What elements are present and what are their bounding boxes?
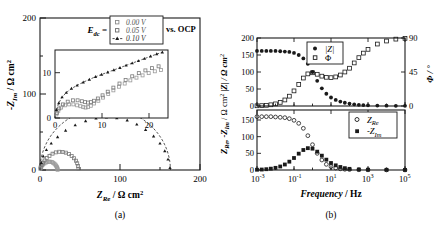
data-point <box>287 50 291 54</box>
inset-xtick-20: 20 <box>145 120 154 130</box>
data-point <box>357 103 361 107</box>
panel-b-ytick-bottom: 0 <box>250 165 254 175</box>
panel-b-legend-bottom: ZRe -ZIm <box>349 112 397 138</box>
data-point <box>320 86 324 90</box>
panel-b-ylabel-right: Φ / ° <box>425 65 435 83</box>
panel-b-xtick: 103 <box>362 172 374 184</box>
panel-b-ytick-top: 50 <box>246 84 255 94</box>
data-point <box>385 168 389 172</box>
panel-a-xlabel-exp: 2 <box>140 189 143 196</box>
panel-b-ytick-bottom: 100 <box>241 132 254 142</box>
panel-b-ylabel-l1s: Re <box>223 142 230 150</box>
data-point <box>269 49 273 53</box>
data-point <box>361 103 365 107</box>
data-point <box>334 163 338 167</box>
legend-suffix-ocp: vs. OCP <box>166 24 196 34</box>
panel-a-xlabel-unit: / Ω cm <box>112 190 140 200</box>
data-point <box>366 103 370 107</box>
data-point <box>283 163 287 167</box>
panel-a-xtick-0: 0 <box>38 174 43 184</box>
panel-b-ytick-bottom: 50 <box>246 148 255 158</box>
panel-b-ylabel-l4e: 2 <box>218 54 225 57</box>
panel-a-ytick-0: 0 <box>32 165 37 175</box>
panel-b-ytick-top: 150 <box>241 50 254 60</box>
panel-a-xtick-100: 100 <box>113 174 127 184</box>
data-point <box>269 167 273 171</box>
data-point <box>348 102 352 106</box>
data-point <box>375 104 379 108</box>
panel-b-ytick-right: 0 <box>409 101 413 111</box>
data-point <box>334 98 338 102</box>
panel-a-inset-frame <box>55 50 168 118</box>
data-point <box>278 49 282 53</box>
data-point <box>324 92 328 96</box>
svg-text:ZRe, -ZIm / Ω cm2 |Z| / Ω cm2: ZRe, -ZIm / Ω cm2 |Z| / Ω cm2 <box>218 54 230 155</box>
data-point <box>348 167 352 171</box>
legend-label-zim-sub: Im <box>374 131 382 138</box>
panel-b-svg: 10-310-110110310505010015020004590050100… <box>215 0 442 232</box>
legend-marker-zim <box>355 129 359 133</box>
data-point <box>306 146 310 150</box>
panel-a-xtick-200: 200 <box>193 174 207 184</box>
panel-b-xtick: 101 <box>325 172 337 184</box>
panel-a-legend-eq: = <box>102 25 107 35</box>
data-point <box>366 168 370 172</box>
panel-b-xlabel-unit: / Hz <box>344 189 362 199</box>
data-point <box>283 50 287 54</box>
data-point <box>297 53 301 57</box>
panel-b-ytick-right: 90 <box>409 33 418 43</box>
panel-a-ylabel-unit: / Ω cm <box>6 63 16 91</box>
panel-a-xlabel-sub: Re <box>102 195 111 203</box>
inset-xtick-0: 0 <box>53 120 57 130</box>
data-point <box>403 168 407 172</box>
legend-label-010v: 0.10 V <box>126 34 147 43</box>
panel-b-ylabel-l2: , -Z <box>219 130 229 143</box>
data-point <box>264 49 268 53</box>
data-point <box>301 57 305 61</box>
svg-text:-ZIm / Ω cm2: -ZIm / Ω cm2 <box>5 60 19 110</box>
panel-b-ylabel-l4: |Z| / Ω cm <box>219 57 229 92</box>
data-point <box>292 156 296 160</box>
legend-label-phi: Φ <box>325 53 331 63</box>
data-point <box>329 161 333 165</box>
panel-a-svg: 0 100 200 0 100 200 -ZIm / Ω cm2 ZRe / Ω… <box>0 0 215 232</box>
panel-a-caption: (a) <box>115 210 126 221</box>
panel-a-ytick-100: 100 <box>23 89 37 99</box>
panel-a-nyquist: 0 100 200 0 100 200 -ZIm / Ω cm2 ZRe / Ω… <box>0 0 215 232</box>
panel-b-xtick: 10-1 <box>288 172 302 184</box>
data-point <box>287 160 291 164</box>
data-point <box>343 166 347 170</box>
inset-ytick-0: 0 <box>47 113 51 123</box>
data-point <box>255 168 259 172</box>
panel-b-bode: 10-310-110110310505010015020004590050100… <box>215 0 442 232</box>
data-point <box>255 49 259 53</box>
panel-b-xlabel-main: Frequency <box>299 189 343 199</box>
panel-b-ytick-right: 45 <box>409 67 418 77</box>
data-point <box>343 101 347 105</box>
panel-b-xtick: 105 <box>399 172 411 184</box>
data-point <box>311 147 315 151</box>
data-point <box>403 104 407 108</box>
panel-b-caption: (b) <box>325 210 336 221</box>
panel-b-ytick-top: 100 <box>241 67 254 77</box>
data-point <box>394 104 398 108</box>
legend-marker-absz <box>313 47 317 51</box>
panel-b-ylabel-l2s: Im <box>223 122 230 130</box>
inset-xtick-10: 10 <box>98 120 107 130</box>
panel-b-ytick-top: 0 <box>250 101 254 111</box>
panel-a-ylabel: -ZIm / Ω cm2 <box>5 60 19 110</box>
data-point <box>260 49 264 53</box>
panel-a-legend-title-main: E <box>87 25 94 35</box>
panel-b-ytick-bottom: 150 <box>241 115 254 125</box>
data-point <box>260 168 264 172</box>
data-point <box>264 167 268 171</box>
panel-a-ylabel-exp: 2 <box>5 60 12 63</box>
data-point <box>315 150 319 154</box>
data-point <box>338 165 342 169</box>
data-point <box>329 96 333 100</box>
panel-b-legend-top: |Z| Φ <box>307 42 343 64</box>
panel-b-ylabel-left: ZRe, -ZIm / Ω cm2 |Z| / Ω cm2 <box>218 54 230 155</box>
panel-b-ylabel-right-text: Φ / ° <box>425 65 435 83</box>
data-point <box>357 168 361 172</box>
panel-b-ylabel-l3: / Ω cm <box>219 96 229 120</box>
